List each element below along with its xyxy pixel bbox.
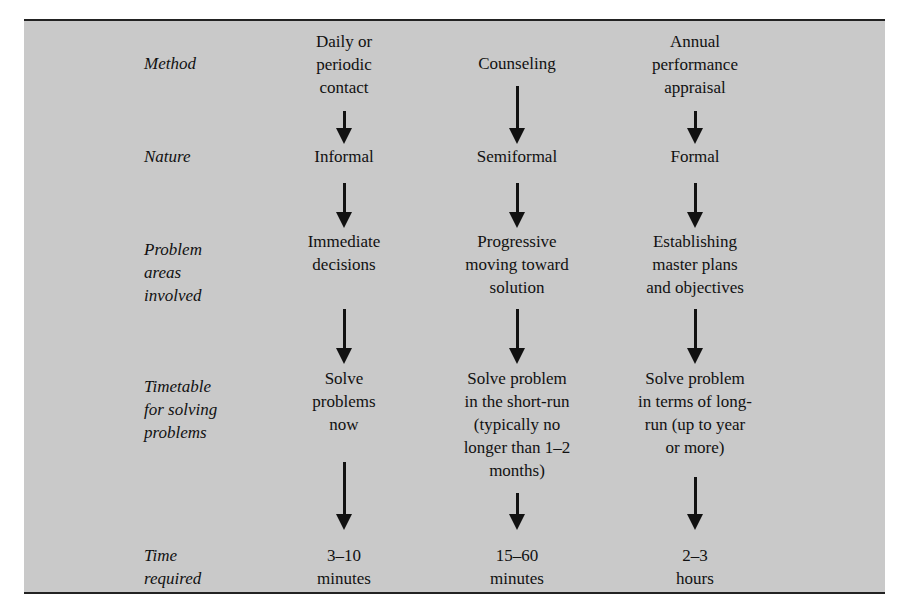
cell-timetable-now: Solve problems now	[259, 367, 429, 436]
cell-timetable-long-run: Solve problem in terms of long- run (up …	[610, 367, 780, 459]
arrow-down-icon	[336, 111, 352, 144]
row-label-timetable: Timetable for solving problems	[144, 375, 217, 444]
arrow-down-icon	[687, 309, 703, 364]
row-label-time-required: Time required	[144, 544, 201, 590]
cell-nature-informal: Informal	[259, 145, 429, 168]
cell-time-15-60: 15–60 minutes	[432, 544, 602, 590]
arrow-down-icon	[336, 462, 352, 530]
cell-problem-progressive: Progressive moving toward solution	[432, 230, 602, 299]
row-label-method: Method	[144, 52, 196, 75]
cell-problem-immediate: Immediate decisions	[259, 230, 429, 276]
cell-time-2-3: 2–3 hours	[610, 544, 780, 590]
arrow-down-icon	[509, 309, 525, 364]
arrow-down-icon	[509, 86, 525, 144]
cell-timetable-short-run: Solve problem in the short-run (typicall…	[432, 367, 602, 482]
cell-time-3-10: 3–10 minutes	[259, 544, 429, 590]
arrow-down-icon	[509, 493, 525, 530]
arrow-down-icon	[336, 183, 352, 228]
row-label-problem-areas: Problem areas involved	[144, 238, 202, 307]
cell-method-counseling: Counseling	[432, 52, 602, 75]
cell-nature-semiformal: Semiformal	[432, 145, 602, 168]
row-label-nature: Nature	[144, 145, 191, 168]
cell-method-daily: Daily or periodic contact	[259, 30, 429, 99]
cell-method-annual: Annual performance appraisal	[610, 30, 780, 99]
arrow-down-icon	[336, 309, 352, 364]
cell-nature-formal: Formal	[610, 145, 780, 168]
arrow-down-icon	[509, 183, 525, 228]
arrow-down-icon	[687, 111, 703, 144]
cell-problem-establishing: Establishing master plans and objectives	[610, 230, 780, 299]
arrow-down-icon	[687, 477, 703, 530]
arrow-down-icon	[687, 183, 703, 228]
